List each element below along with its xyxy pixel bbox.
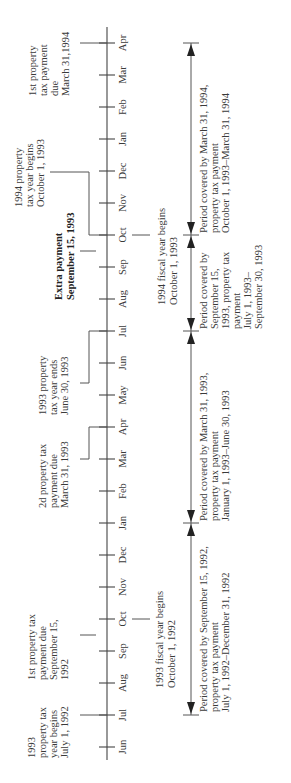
month-label: Oct — [117, 227, 128, 242]
month-label: Mar — [117, 66, 128, 84]
annotation-1st-payment-1994-line: tax payment — [38, 44, 49, 96]
annotation-1993-fiscal-year-begins-line: October 1, 1992 — [166, 620, 177, 688]
period-1-label-line: Period covered by September 15, 1992, — [198, 546, 209, 712]
month-label: Dec — [117, 546, 128, 563]
month-label: Aug — [117, 673, 128, 692]
annotation-extra-payment: Extra paymentSeptember 15, 1993 — [53, 212, 76, 300]
period-4-label-line: October 1, 1993–March 31, 1994 — [220, 92, 231, 233]
timeline-diagram: JunJulAugSepOctNovDecJanFebMarAprMayJunJ… — [0, 0, 291, 783]
period-2-label-line: property tax payment — [209, 431, 220, 521]
annotation-1st-payment-1994-line: March 31,1994 — [60, 31, 71, 96]
annotation-1st-payment-1992-line: 1992 — [59, 659, 70, 680]
month-labels: JunJulAugSepOctNovDecJanFebMarAprMayJunJ… — [117, 34, 128, 754]
annotation-1st-payment-1992-line: 1st property tax — [26, 613, 37, 680]
annotation-1993-property-tax-year-ends-line: 1993 property — [37, 355, 48, 415]
month-label: Jun — [117, 739, 128, 754]
period-3-label-line: September 15, — [209, 268, 220, 329]
period-3-label-line: July 1, 1993– — [242, 271, 253, 329]
annotation-extra-payment-line: September 15, 1993 — [65, 212, 76, 300]
month-label: Jul — [117, 709, 128, 721]
period-2-label-line: January 1, 1993–June 30, 1993 — [220, 390, 231, 521]
period-2-label: Period covered by March 31, 1993,propert… — [198, 373, 231, 521]
annotation-1993-property-tax-year-ends: 1993 propertytax year endsJune 30, 1993 — [37, 355, 70, 415]
period-1-label-line: July 1, 1992–December 31, 1992 — [220, 573, 231, 712]
period-4-label-line: Period covered by March 31, 1994, — [198, 85, 209, 233]
month-label: Feb — [117, 483, 128, 499]
annotation-1994-fiscal-year-begins-line: October 1, 1993 — [168, 237, 179, 305]
period-3-label-line: 1993, property tax — [220, 251, 231, 329]
annotation-1993-property-tax-year-begins-line: 1993 — [26, 737, 37, 758]
annotation-1993-property-tax-year-begins-line: property tax — [37, 706, 48, 758]
annotation-1st-payment-1992-line: payment due — [37, 626, 48, 680]
annotation-1st-payment-1992: 1st property taxpayment dueSeptember 15,… — [26, 613, 70, 680]
month-label: Mar — [117, 450, 128, 468]
annotation-1994-fiscal-year-begins: 1994 fiscal year beginsOctober 1, 1993 — [156, 208, 179, 305]
month-label: Sep — [117, 259, 128, 275]
annotation-2d-payment-line: 2d property tax — [37, 443, 48, 508]
month-label: Jan — [117, 515, 128, 530]
annotation-2d-payment: 2d property taxpayment dueMarch 31, 1993 — [37, 441, 70, 508]
annotation-1993-property-tax-year-begins-line: year begins — [48, 710, 59, 758]
annotation-1994-property-tax-year-begins: 1994 propertytax year beginsOctober 1, 1… — [13, 139, 46, 207]
annotation-1993-property-tax-year-begins-line: July 1, 1992 — [59, 706, 70, 758]
month-label: Apr — [117, 418, 128, 435]
period-1-label: Period covered by September 15, 1992,pro… — [198, 546, 231, 712]
period-3-label-line: September 30, 1993 — [253, 245, 264, 329]
month-label: May — [117, 385, 128, 405]
period-4-label-line: property tax payment — [209, 143, 220, 233]
annotation-1st-payment-1992-line: September 15, — [48, 619, 59, 680]
annotation-1st-payment-1994-line: due — [49, 81, 60, 97]
annotation-1993-property-tax-year-ends-line: tax year ends — [48, 360, 59, 415]
annotation-extra-payment-line: Extra payment — [53, 232, 64, 300]
annotation-1st-payment-1994-line: 1st property — [27, 45, 38, 96]
annotation-1994-fiscal-year-begins-line: 1994 fiscal year begins — [156, 208, 167, 305]
annotation-1993-fiscal-year-begins: 1993 fiscal year beginsOctober 1, 1992 — [154, 591, 177, 688]
month-label: Aug — [117, 289, 128, 308]
period-4-label: Period covered by March 31, 1994,propert… — [198, 85, 231, 233]
annotation-1st-payment-1994: 1st propertytax paymentdueMarch 31,1994 — [27, 31, 71, 96]
annotation-2d-payment-line: payment due — [48, 454, 59, 508]
annotation-1993-property-tax-year-begins: 1993property taxyear beginsJuly 1, 1992 — [26, 706, 70, 758]
month-label: Nov — [117, 193, 128, 212]
month-label: Jan — [117, 131, 128, 146]
month-label: Feb — [117, 99, 128, 115]
period-3-label: Period covered bySeptember 15,1993, prop… — [198, 245, 264, 329]
month-label: Oct — [117, 611, 128, 626]
month-label: Dec — [117, 162, 128, 179]
period-3-label-line: Period covered by — [198, 252, 209, 329]
annotation-1994-property-tax-year-begins-line: October 1, 1993 — [35, 139, 46, 207]
month-label: Jun — [117, 355, 128, 370]
period-arrows — [183, 43, 199, 715]
annotation-2d-payment-line: March 31, 1993 — [59, 441, 70, 508]
annotation-1994-property-tax-year-begins-line: 1994 property — [13, 147, 24, 207]
period-3-label-line: payment — [231, 293, 242, 329]
month-label: Sep — [117, 643, 128, 659]
annotation-1994-property-tax-year-begins-line: tax year begins — [24, 143, 35, 207]
period-2-label-line: Period covered by March 31, 1993, — [198, 373, 209, 521]
annotation-1993-fiscal-year-begins-line: 1993 fiscal year begins — [154, 591, 165, 688]
month-label: Jul — [117, 325, 128, 337]
month-label: Apr — [117, 34, 128, 51]
month-label: Nov — [117, 577, 128, 596]
period-1-label-line: property tax payment — [209, 622, 220, 712]
annotation-1993-property-tax-year-ends-line: June 30, 1993 — [59, 356, 70, 415]
